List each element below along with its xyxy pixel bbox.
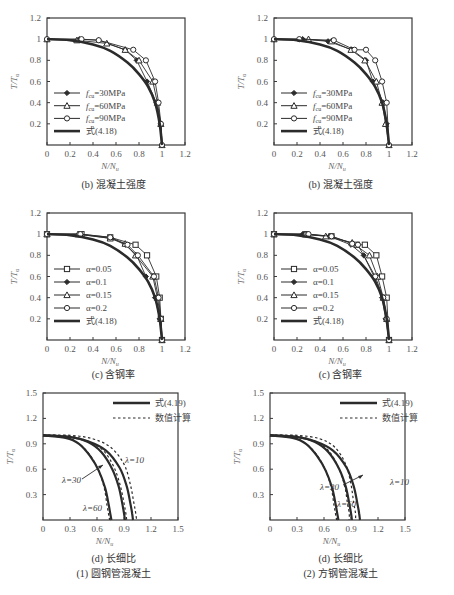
legend: α=0.05α=0.1α=0.15α=0.2式(4.18) [281,264,344,326]
caption-d-right: (d) 长细比 [227,550,454,565]
x-tick-label: 1.5 [172,524,184,534]
chart-c-left: 00.20.40.60.811.20.20.40.60.811.2N/NuT/T… [0,195,227,385]
y-tick-label: 0.2 [257,314,268,324]
circle-marker-icon [135,253,140,258]
chart-d-right: 00.30.60.91.21.50.30.60.91.21.5N/NuT/Tu式… [227,385,454,585]
legend-label: α=0.2 [313,303,334,313]
legend-label: α=0.1 [86,277,107,287]
circle-marker-icon [108,235,113,240]
y-tick-label: 0.6 [257,272,269,282]
circle-marker-icon [355,242,360,247]
subcaption-d-left: (1) 圆钢管混凝土 [0,565,227,580]
y-axis-label: T/Tu [5,449,16,465]
circle-marker-icon [329,234,334,239]
legend-label: α=0.1 [313,277,334,287]
circle-marker-icon [291,116,296,121]
y-axis-label: T/Tu [9,74,20,90]
x-tick-label: 1.2 [145,524,156,534]
x-tick-label: 0 [45,344,50,354]
square-marker-icon [133,242,138,247]
circle-marker-icon [151,274,156,279]
x-tick-label: 0.6 [110,344,122,354]
x-tick-label: 1.2 [406,344,417,354]
circle-marker-icon [131,47,136,52]
y-tick-label: 0.6 [257,77,269,87]
circle-marker-icon [384,100,389,105]
y-axis-label: T/Tu [236,269,247,285]
x-tick-label: 0.2 [291,149,302,159]
legend-label: 式(4.18) [86,125,117,136]
y-tick-label: 1 [37,229,42,239]
x-tick-label: 0.3 [291,524,303,534]
y-tick-label: 1 [264,34,269,44]
circle-marker-icon [373,58,378,63]
chart-plot-d-left: 00.30.60.91.21.50.30.60.91.21.5N/NuT/Tu式… [0,385,227,550]
y-axis-label: T/Tu [236,74,247,90]
x-tick-label: 0.3 [64,524,76,534]
legend: fcu=30MPafcu=60MPafcu=90MPa式(4.18) [54,88,125,136]
x-tick-label: 1.2 [179,149,190,159]
annotation-lambda-10: λ=10 [389,477,409,487]
square-marker-icon [64,266,69,271]
legend-label: α=0.15 [313,290,339,300]
x-tick-label: 0.9 [118,524,130,534]
diamond-marker-icon [64,279,69,284]
x-tick-label: 0.6 [91,524,103,534]
x-tick-label: 0.4 [314,344,326,354]
circle-marker-icon [143,58,148,63]
series-line [270,435,337,520]
triangle-marker-icon [366,252,372,258]
square-marker-icon [291,266,296,271]
x-tick-label: 0.4 [87,149,99,159]
x-tick-label: 0.2 [64,344,75,354]
circle-marker-icon [331,38,336,43]
legend-label: fcu=30MPa [313,88,352,99]
y-tick-label: 0.9 [253,439,265,449]
circle-marker-icon [350,241,355,246]
circle-marker-icon [352,47,357,52]
legend-label: fcu=60MPa [313,101,352,112]
legend-label: fcu=60MPa [86,101,125,112]
y-tick-label: 1.5 [26,388,38,398]
legend: α=0.05α=0.1α=0.15α=0.2式(4.18) [54,264,117,326]
y-tick-label: 1.2 [30,13,41,23]
chart-b-right: 00.20.40.60.811.20.20.40.60.811.2N/NuT/T… [227,0,454,195]
x-tick-label: 1.2 [372,524,383,534]
legend-label: 式(4.19) [155,397,186,408]
y-tick-label: 1.5 [253,388,265,398]
legend-label: 式(4.18) [313,125,344,136]
y-tick-label: 0.6 [26,464,38,474]
annotation-lambda-60: λ=60 [82,503,102,513]
x-tick-label: 0.2 [291,344,302,354]
legend-label: fcu=90MPa [86,113,125,124]
circle-marker-icon [380,79,385,84]
legend: 式(4.19)数值计算 [113,397,191,423]
x-tick-label: 0.6 [110,149,122,159]
x-tick-label: 0.8 [133,149,145,159]
y-tick-label: 0.6 [30,272,42,282]
x-tick-label: 0.9 [345,524,357,534]
y-tick-label: 0.8 [257,55,269,65]
y-tick-label: 0.4 [257,98,269,108]
legend-label: α=0.05 [313,264,339,274]
y-axis-label: T/Tu [9,269,20,285]
legend-label: α=0.2 [86,303,107,313]
chart-plot-c-right: 00.20.40.60.811.20.20.40.60.811.2N/NuT/T… [227,195,454,370]
x-tick-label: 1.2 [406,149,417,159]
annotation-lambda-10: λ=10 [124,455,144,465]
y-tick-label: 0.3 [26,490,38,500]
diamond-marker-icon [291,90,296,95]
legend: fcu=30MPafcu=60MPafcu=90MPa式(4.18) [281,88,352,136]
x-tick-label: 0.8 [133,344,145,354]
caption-b-left: (b) 混凝土强度 [0,176,227,191]
chart-c-right: 00.20.40.60.811.20.20.40.60.811.2N/NuT/T… [227,195,454,385]
y-tick-label: 1.2 [257,13,268,23]
x-axis-label: N/Nu [322,536,341,547]
circle-marker-icon [64,305,69,310]
x-tick-label: 1 [387,149,392,159]
x-tick-label: 0 [45,149,50,159]
chart-plot-b-right: 00.20.40.60.811.20.20.40.60.811.2N/NuT/T… [227,0,454,180]
caption-d-left: (d) 长细比 [0,550,227,565]
x-tick-label: 0.2 [64,149,75,159]
chart-plot-d-right: 00.30.60.91.21.50.30.60.91.21.5N/NuT/Tu式… [227,385,454,550]
